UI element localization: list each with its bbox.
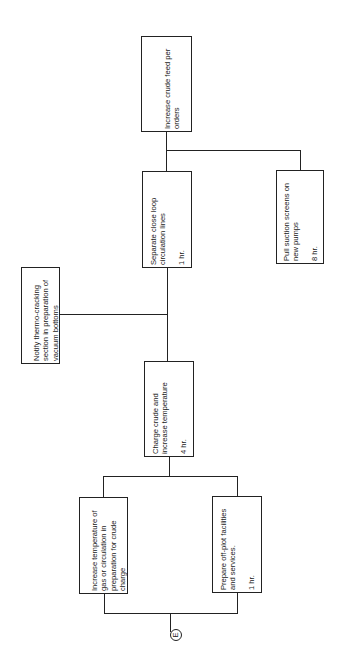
connector-label: E — [172, 632, 180, 637]
duration-label: 1 hr. — [246, 500, 256, 590]
node-notify-thermo: Notify thermo-cracking section in prepar… — [21, 267, 60, 364]
edge-line — [166, 131, 167, 151]
node-label: Prepare off-plot facilities and services… — [209, 500, 266, 590]
node-separate-loop: Separate close loop circulation lines 1 … — [142, 171, 192, 268]
edge-line — [103, 476, 104, 498]
edge-line — [169, 456, 170, 477]
edge-line — [166, 150, 167, 171]
node-label: Notify thermo-cracking section in prepar… — [21, 271, 59, 361]
duration-label: 1 hr. — [176, 175, 186, 265]
node-increase-feed: Increase crude feed per orders — [141, 36, 192, 132]
edge-line — [170, 613, 171, 632]
edge-line — [237, 592, 238, 614]
duration-label: 8 hr. — [309, 173, 319, 261]
node-label: Charge crude and increase temperature 4 … — [141, 364, 198, 454]
node-pull-screens: Pull suction screens on new pumps 8 hr. — [276, 170, 324, 264]
duration-label: 4 hr. — [178, 364, 188, 454]
node-label: Separate close loop circulation lines 1 … — [139, 175, 196, 265]
node-label: Increase crude feed per orders — [152, 39, 181, 129]
edge-line — [59, 314, 168, 315]
edge-line — [103, 476, 238, 477]
edge-line — [166, 150, 301, 151]
node-label: Pull suction screens on new pumps 8 hr. — [272, 173, 329, 261]
edge-line — [104, 593, 105, 614]
node-increase-temp-gas: Increase temperature of gas or circulati… — [79, 497, 128, 594]
edge-line — [237, 476, 238, 497]
node-prepare-offplot: Prepare off-plot facilities and services… — [212, 496, 262, 593]
node-charge-crude: Charge crude and increase temperature 4 … — [144, 361, 194, 457]
edge-line — [300, 150, 301, 170]
connector-e: E — [170, 629, 182, 641]
node-label: Increase temperature of gas or circulati… — [80, 501, 128, 591]
